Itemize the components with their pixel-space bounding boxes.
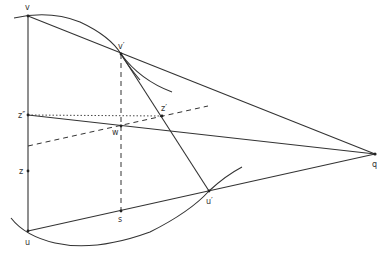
label-w: w [112,128,119,137]
line-zpp-q [28,115,375,154]
label-up: u′ [206,197,213,206]
point-up [208,190,211,193]
point-s [120,210,123,213]
point-u [27,230,30,233]
label-v: v [25,3,30,12]
line-v-q [28,16,375,154]
label-s: s [118,215,122,224]
point-v [27,15,30,18]
dotted-zpp-zp [28,115,162,116]
upper-curve [14,15,172,92]
label-u: u [25,238,30,247]
lower-curve [11,167,242,246]
label-zpp: z″ [18,111,25,120]
point-zp [161,115,164,118]
label-z: z [19,167,23,176]
label-zp: z′ [161,104,167,113]
label-q: q [372,160,377,169]
geometric-diagram: v v′ z″ w z′ z s u′ u q [0,0,383,255]
label-vp: v′ [118,42,125,51]
line-u-q [28,154,375,231]
point-q [373,152,376,155]
point-vp [120,53,123,56]
point-zpp [27,114,30,117]
point-w [120,125,123,128]
point-z [27,170,30,173]
dashed-transversal [28,106,208,146]
